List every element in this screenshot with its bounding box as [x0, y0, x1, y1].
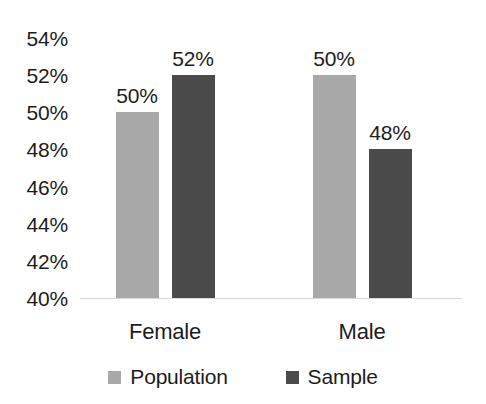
bar-chart: 54%52%50%48%46%44%42%40% 50%52%50%48% Po…	[0, 0, 486, 404]
bar-female-sample[interactable]	[172, 75, 215, 298]
y-axis: 54%52%50%48%46%44%42%40%	[0, 38, 74, 298]
legend-item-population[interactable]: Population	[108, 366, 227, 388]
y-axis-tick-label: 54%	[27, 28, 68, 49]
bar-male-sample[interactable]	[369, 149, 412, 298]
y-axis-tick-label: 42%	[27, 250, 68, 271]
x-axis-label-male: Male	[339, 320, 386, 344]
bar-male-population[interactable]	[313, 75, 356, 298]
legend-label: Population	[130, 366, 227, 388]
y-axis-tick-label: 44%	[27, 213, 68, 234]
bar-value-label: 48%	[361, 122, 420, 143]
bar-female-population[interactable]	[116, 112, 159, 298]
bar-value-label: 50%	[108, 85, 167, 106]
legend-swatch-icon	[286, 371, 299, 384]
legend-item-sample[interactable]: Sample	[286, 366, 378, 388]
y-axis-tick-label: 40%	[27, 288, 68, 309]
legend-label: Sample	[308, 366, 378, 388]
x-axis-label-female: Female	[129, 320, 201, 344]
y-axis-tick-label: 52%	[27, 65, 68, 86]
bar-value-label: 52%	[164, 48, 223, 69]
legend-swatch-icon	[108, 371, 121, 384]
bar-value-label: 50%	[305, 48, 364, 69]
axis-baseline	[80, 298, 462, 299]
chart-legend: PopulationSample	[0, 364, 486, 390]
plot-area: 50%52%50%48%	[80, 38, 462, 298]
y-axis-tick-label: 46%	[27, 176, 68, 197]
y-axis-tick-label: 50%	[27, 102, 68, 123]
y-axis-tick-label: 48%	[27, 139, 68, 160]
